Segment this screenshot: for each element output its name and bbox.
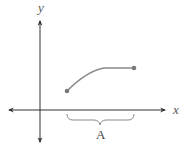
curve-end-point [132, 66, 137, 71]
x-axis-label: x [172, 102, 179, 117]
function-curve [67, 68, 134, 91]
curve-start-point [65, 89, 70, 94]
y-axis-label: y [36, 0, 44, 15]
interval-brace [67, 114, 134, 125]
interval-label: A [96, 127, 106, 142]
graph-diagram: y x A [0, 0, 187, 151]
